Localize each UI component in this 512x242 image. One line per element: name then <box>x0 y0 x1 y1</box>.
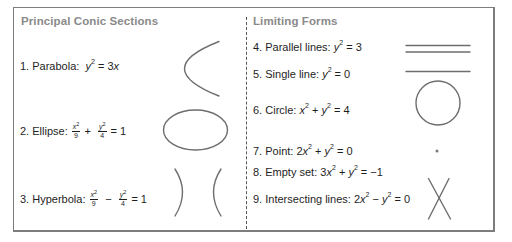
hyperbola-right-branch <box>214 169 222 216</box>
ellipse-shape <box>164 110 228 150</box>
hyperbola-left-branch <box>175 169 183 216</box>
point-shape <box>436 150 439 153</box>
parabola-curve <box>185 42 220 97</box>
conic-figures <box>0 0 512 242</box>
circle-shape <box>416 81 460 125</box>
